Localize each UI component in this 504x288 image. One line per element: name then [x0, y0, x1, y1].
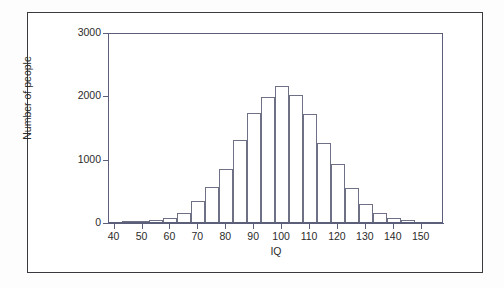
histogram-bar — [275, 86, 289, 222]
x-axis-tick-label: 70 — [182, 230, 212, 242]
histogram-bar — [205, 187, 219, 222]
y-axis-tick — [103, 96, 108, 97]
histogram-bar — [289, 95, 303, 222]
x-axis-tick-label: 50 — [127, 230, 157, 242]
x-axis-tick — [197, 224, 198, 229]
x-axis-tick-label: 40 — [99, 230, 129, 242]
histogram-bars — [109, 34, 442, 222]
histogram-bar — [387, 218, 401, 222]
y-axis-tick — [103, 33, 108, 34]
x-axis-tick — [142, 224, 143, 229]
histogram-bar — [122, 221, 136, 222]
x-axis-tick — [253, 224, 254, 229]
x-axis-tick — [169, 224, 170, 229]
x-axis-tick — [309, 224, 310, 229]
x-axis-tick — [114, 224, 115, 229]
y-axis-labels-group: 0100020003000 — [58, 0, 101, 288]
x-axis-tick — [365, 224, 366, 229]
x-axis-tick — [393, 224, 394, 229]
histogram-bar — [247, 113, 261, 222]
x-axis-tick-label: 140 — [378, 230, 408, 242]
histogram-bar — [136, 221, 150, 222]
histogram-bar — [317, 143, 331, 222]
figure-page: 0100020003000 Number of people IQ 405060… — [0, 0, 504, 288]
x-axis-tick-label: 90 — [238, 230, 268, 242]
histogram-bar — [233, 140, 247, 222]
x-axis-tick-label: 80 — [210, 230, 240, 242]
x-axis-tick-label: 150 — [406, 230, 436, 242]
histogram-bar — [177, 213, 191, 223]
y-axis-tick-label: 0 — [58, 217, 101, 228]
histogram-bar — [219, 169, 233, 222]
y-axis-tick — [103, 160, 108, 161]
x-axis-tick-label: 120 — [322, 230, 352, 242]
x-axis-tick-label: 110 — [294, 230, 324, 242]
histogram-bar — [331, 164, 345, 222]
histogram-bar — [373, 213, 387, 223]
histogram-bar — [359, 204, 373, 222]
y-axis-tick — [103, 223, 108, 224]
histogram-bar — [149, 220, 163, 222]
y-axis-title: Number of people — [21, 43, 33, 153]
x-axis-tick — [225, 224, 226, 229]
plot-area — [108, 33, 443, 223]
x-axis-tick — [421, 224, 422, 229]
x-axis-tick — [281, 224, 282, 229]
x-axis-tick — [337, 224, 338, 229]
histogram-bar — [303, 114, 317, 222]
histogram-bar — [163, 218, 177, 222]
x-axis-title: IQ — [108, 245, 444, 257]
y-axis-tick-label: 1000 — [58, 154, 101, 165]
histogram-bar — [191, 201, 205, 222]
x-axis-tick-label: 100 — [266, 230, 296, 242]
x-axis-tick-label: 130 — [350, 230, 380, 242]
x-axis-tick-label: 60 — [154, 230, 184, 242]
histogram-bar — [401, 220, 415, 222]
y-axis-tick-label: 2000 — [58, 90, 101, 101]
histogram-bar — [345, 188, 359, 222]
histogram-bar — [261, 97, 275, 222]
y-axis-tick-label: 3000 — [58, 27, 101, 38]
